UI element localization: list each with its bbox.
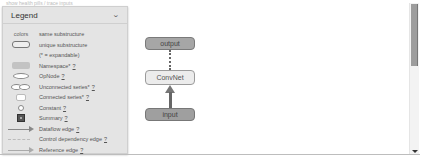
legend-item-constant: Constant ? bbox=[3, 103, 127, 114]
legend-item-label: unique substructure bbox=[39, 42, 87, 48]
constant-circle-icon bbox=[18, 105, 24, 111]
legend-item-control-dependency-edge: Control dependency edge ? bbox=[3, 134, 127, 145]
node-convnet[interactable]: ConvNet bbox=[145, 70, 195, 85]
help-link[interactable]: ? bbox=[86, 94, 89, 100]
dataflow-edge-icon bbox=[8, 126, 34, 132]
dataflow-edge bbox=[169, 92, 172, 108]
legend-body: colors same substructure unique substruc… bbox=[3, 24, 127, 155]
legend-item-connected-series: Connected series* ? bbox=[3, 92, 127, 103]
legend-item-label: Unconnected series* bbox=[39, 84, 90, 90]
chevron-down-icon[interactable]: ⌄ bbox=[112, 11, 120, 19]
legend-item-opnode: OpNode ? bbox=[3, 71, 127, 82]
vertical-scrollbar[interactable] bbox=[409, 3, 419, 155]
legend-item-same-substructure: colors same substructure bbox=[3, 29, 127, 40]
legend-item-label: Control dependency edge bbox=[39, 136, 102, 142]
legend-item-label: OpNode bbox=[39, 73, 60, 79]
legend-item-summary: Summary ? bbox=[3, 113, 127, 124]
help-link[interactable]: ? bbox=[80, 147, 83, 153]
unconnected-series-icon bbox=[11, 84, 31, 90]
legend-item-label: (* = expandable) bbox=[39, 52, 80, 58]
legend-item-label: Reference edge bbox=[39, 147, 78, 153]
summary-icon bbox=[17, 114, 25, 122]
help-link[interactable]: ? bbox=[62, 73, 65, 79]
namespace-rect-icon bbox=[12, 62, 30, 69]
legend-item-label: Constant bbox=[39, 105, 61, 111]
control-dependency-edge bbox=[169, 50, 171, 70]
opnode-ellipse-icon bbox=[13, 73, 29, 79]
help-link[interactable]: ? bbox=[76, 126, 79, 132]
help-link[interactable]: ? bbox=[104, 136, 107, 142]
graph-view: show health pills / trace inputs Legend … bbox=[0, 0, 425, 158]
control-dependency-edge-icon bbox=[8, 136, 34, 142]
legend-title: Legend bbox=[11, 11, 38, 20]
help-link[interactable]: ? bbox=[92, 84, 95, 90]
divider bbox=[0, 154, 420, 155]
legend-panel: Legend ⌄ colors same substructure unique… bbox=[2, 6, 128, 154]
legend-item-label: Summary bbox=[39, 115, 63, 121]
scroll-thumb[interactable] bbox=[411, 4, 418, 66]
legend-header[interactable]: Legend ⌄ bbox=[3, 7, 127, 24]
legend-item-namespace: Namespace* ? bbox=[3, 61, 127, 72]
colors-label: colors bbox=[14, 31, 29, 37]
graph-canvas[interactable]: output ConvNet input bbox=[130, 0, 384, 155]
legend-item-label: Dataflow edge bbox=[39, 126, 74, 132]
legend-item-unique-substructure: unique substructure bbox=[3, 40, 127, 51]
legend-item-label: same substructure bbox=[39, 31, 84, 37]
legend-item-label: Connected series* bbox=[39, 94, 84, 100]
scroll-down-arrow-icon[interactable] bbox=[412, 150, 418, 153]
node-input[interactable]: input bbox=[145, 108, 195, 121]
help-link[interactable]: ? bbox=[73, 63, 76, 69]
legend-item-dataflow-edge: Dataflow edge ? bbox=[3, 124, 127, 135]
node-output[interactable]: output bbox=[145, 37, 195, 50]
connected-series-icon bbox=[16, 94, 26, 101]
reference-edge-icon bbox=[8, 147, 34, 153]
legend-item-expandable-note: (* = expandable) bbox=[3, 50, 127, 61]
legend-item-unconnected-series: Unconnected series* ? bbox=[3, 82, 127, 93]
help-link[interactable]: ? bbox=[63, 105, 66, 111]
legend-item-label: Namespace* bbox=[39, 63, 71, 69]
unique-substructure-rect-icon bbox=[12, 41, 30, 48]
help-link[interactable]: ? bbox=[65, 115, 68, 121]
